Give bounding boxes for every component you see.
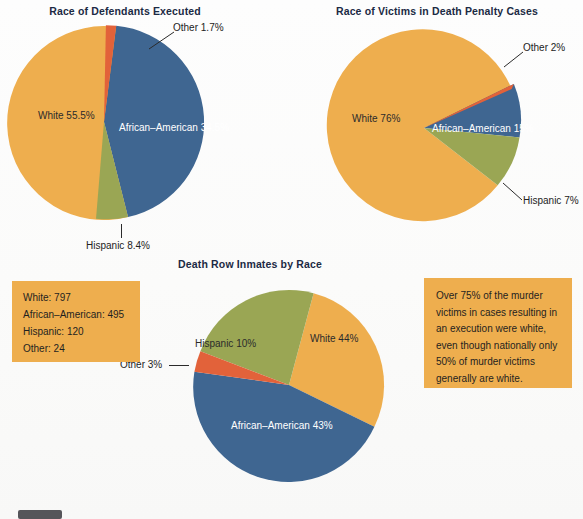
pie-chart-3: [155, 255, 405, 505]
counts-african-american: African–American: 495: [23, 306, 129, 323]
pie-1-label-african-american: African–American 34.5%: [119, 122, 229, 133]
chart-race-of-defendants-executed: Race of Defendants Executed White 55.5% …: [0, 0, 292, 258]
chart-race-of-victims-in-death-penalty-cases: Race of Victims in Death Penalty Cases W…: [292, 0, 583, 258]
pie-1-label-white: White 55.5%: [38, 110, 95, 121]
note-line-2: victims in cases resulting in: [436, 305, 560, 322]
pie-1-label-other: Other 1.7%: [173, 22, 224, 33]
pie-3-label-african-american: African–American 43%: [231, 420, 333, 431]
counts-other: Other: 24: [23, 340, 129, 357]
death-row-counts-box: White: 797 African–American: 495 Hispani…: [12, 281, 140, 362]
pie-3-label-hispanic: Hispanic 10%: [195, 338, 256, 349]
note-line-6: generally are white.: [436, 371, 560, 388]
pie-3-leader-other: [169, 365, 189, 366]
pie-1-leader-hispanic: [121, 224, 122, 238]
chart-death-row-inmates-by-race: Death Row Inmates by Race White 44% Afri…: [155, 255, 405, 505]
pie-3-label-white: White 44%: [310, 333, 358, 344]
pie-chart-1: [0, 0, 240, 240]
note-line-4: even though nationally only: [436, 338, 560, 355]
pie-2-leader-other: [503, 50, 527, 70]
note-line-1: Over 75% of the murder: [436, 288, 560, 305]
pie-2-label-other: Other 2%: [523, 42, 565, 53]
murder-victims-note-box: Over 75% of the murder victims in cases …: [424, 278, 572, 388]
figure-caption-badge: [18, 510, 62, 519]
pie-2-label-hispanic: Hispanic 7%: [523, 195, 579, 206]
pie-1-leader-other: [148, 30, 178, 52]
note-line-3: an execution were white,: [436, 321, 560, 338]
pie-chart-1-svg: [0, 0, 240, 240]
note-line-5: 50% of murder victims: [436, 354, 560, 371]
pie-2-label-african-american: African–American 15%: [432, 123, 534, 134]
counts-white: White: 797: [23, 289, 129, 306]
pie-2-label-white: White 76%: [352, 113, 400, 124]
pie-1-label-hispanic: Hispanic 8.4%: [86, 240, 150, 251]
counts-hispanic: Hispanic: 120: [23, 323, 129, 340]
pie-2-leader-hispanic: [502, 182, 526, 204]
pie-chart-3-svg: [155, 255, 405, 505]
